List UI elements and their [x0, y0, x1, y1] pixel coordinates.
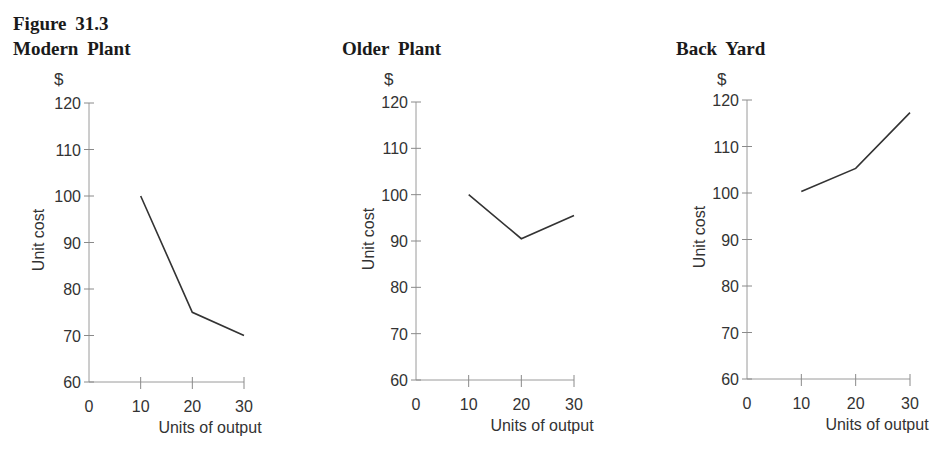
- x-tick-label: 30: [235, 398, 253, 415]
- y-tick-label: 90: [390, 233, 408, 250]
- unit-cost-line: [469, 195, 574, 239]
- x-tick-label: 10: [460, 396, 478, 413]
- x-axis-title: Units of output: [158, 419, 262, 436]
- chart-older-plant: 607080901001101200102030Unit costUnits o…: [360, 94, 594, 434]
- charts-canvas: 607080901001101200102030Unit costUnits o…: [0, 0, 942, 456]
- x-tick-label: 20: [183, 398, 201, 415]
- y-tick-label: 90: [721, 232, 739, 249]
- y-axis-title: Unit cost: [691, 205, 708, 268]
- unit-cost-line: [141, 196, 244, 336]
- y-axis-title: Unit cost: [360, 207, 377, 270]
- y-tick-label: 70: [390, 326, 408, 343]
- y-tick-label: 100: [712, 185, 739, 202]
- chart-modern-plant: 607080901001101200102030Unit costUnits o…: [30, 95, 262, 436]
- y-tick-label: 90: [63, 235, 81, 252]
- y-tick-label: 100: [381, 187, 408, 204]
- x-tick-label: 0: [412, 396, 421, 413]
- y-tick-label: 70: [721, 325, 739, 342]
- x-axis-title: Units of output: [490, 417, 594, 434]
- y-tick-label: 60: [721, 371, 739, 388]
- x-tick-label: 30: [565, 396, 583, 413]
- x-tick-label: 10: [132, 398, 150, 415]
- y-tick-label: 80: [63, 281, 81, 298]
- x-tick-label: 20: [847, 395, 865, 412]
- y-tick-label: 120: [54, 95, 81, 112]
- x-tick-label: 0: [85, 398, 94, 415]
- x-tick-label: 10: [792, 395, 810, 412]
- y-tick-label: 100: [54, 188, 81, 205]
- y-tick-label: 80: [390, 279, 408, 296]
- y-tick-label: 110: [382, 140, 408, 157]
- y-tick-label: 110: [55, 142, 81, 159]
- y-tick-label: 120: [381, 94, 408, 111]
- chart-back-yard: 607080901001101200102030Unit costUnits o…: [691, 92, 929, 433]
- x-axis-title: Units of output: [825, 416, 929, 433]
- x-tick-label: 30: [901, 395, 919, 412]
- y-tick-label: 120: [712, 92, 739, 109]
- y-tick-label: 60: [390, 372, 408, 389]
- x-tick-label: 0: [743, 395, 752, 412]
- y-axis-title: Unit cost: [30, 208, 47, 271]
- y-tick-label: 110: [713, 139, 739, 156]
- y-tick-label: 70: [63, 328, 81, 345]
- y-tick-label: 60: [63, 374, 81, 391]
- unit-cost-line: [801, 113, 910, 192]
- y-tick-label: 80: [721, 278, 739, 295]
- x-tick-label: 20: [512, 396, 530, 413]
